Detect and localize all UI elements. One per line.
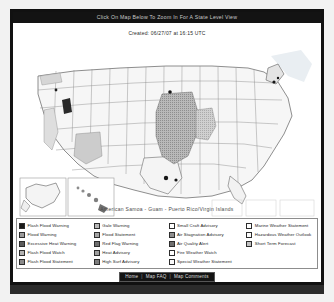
legend-item[interactable]: Special Weather Statement bbox=[169, 257, 247, 266]
nav-separator: | bbox=[140, 274, 144, 279]
legend-label: Special Weather Statement bbox=[177, 259, 232, 265]
legend-swatch bbox=[246, 223, 252, 229]
legend-label: Hazardous Weather Outlook bbox=[255, 232, 312, 238]
legend-swatch bbox=[19, 232, 25, 238]
legend-label: Fire Weather Watch bbox=[177, 250, 217, 256]
legend-swatch bbox=[169, 250, 175, 256]
nav-home-link[interactable]: Home bbox=[125, 274, 138, 279]
legend-swatch bbox=[169, 232, 175, 238]
map-graphic[interactable] bbox=[16, 38, 318, 218]
legend-item[interactable]: Gale Warning bbox=[94, 221, 169, 230]
legend-swatch bbox=[94, 223, 100, 229]
legend-swatch bbox=[94, 241, 100, 247]
bottom-strip bbox=[10, 285, 324, 294]
legend-label: Flash Flood Watch bbox=[28, 250, 65, 256]
legend-column-1: Flash Flood Warning Flood Warning Excess… bbox=[19, 221, 94, 267]
legend-item[interactable]: Flood Warning bbox=[19, 230, 94, 239]
legend-item[interactable]: Hazardous Weather Outlook bbox=[246, 230, 316, 239]
legend-column-4: Marine Weather Statement Hazardous Weath… bbox=[246, 221, 316, 267]
nav-separator: | bbox=[168, 274, 172, 279]
legend-label: Flash Flood Warning bbox=[28, 223, 69, 229]
legend-swatch bbox=[246, 232, 252, 238]
page-root: Click On Map Below To Zoom In For A Stat… bbox=[0, 0, 334, 302]
nav-bar: Home | Map FAQ | Map Comments bbox=[119, 272, 214, 282]
legend-label: Small Craft Advisory bbox=[177, 223, 218, 229]
legend-label: Flood Warning bbox=[28, 232, 57, 238]
legend-item[interactable]: Excessive Heat Warning bbox=[19, 239, 94, 248]
legend-item[interactable]: Flash Flood Watch bbox=[19, 248, 94, 257]
legend-label: Red Flag Warning bbox=[102, 241, 138, 247]
legend-panel: Flash Flood Warning Flood Warning Excess… bbox=[16, 218, 318, 269]
legend-label: Marine Weather Statement bbox=[255, 223, 309, 229]
legend-column-3: Small Craft Advisory Air Stagnation Advi… bbox=[169, 221, 247, 267]
legend-swatch bbox=[169, 241, 175, 247]
legend-swatch bbox=[169, 223, 175, 229]
nav-map-faq-link[interactable]: Map FAQ bbox=[146, 274, 167, 279]
banner-title: Click On Map Below To Zoom In For A Stat… bbox=[13, 12, 321, 23]
legend-item[interactable]: Air Stagnation Advisory bbox=[169, 230, 247, 239]
legend-label: Gale Warning bbox=[102, 223, 129, 229]
legend-label: Heat Advisory bbox=[102, 250, 130, 256]
legend-item[interactable]: Marine Weather Statement bbox=[246, 221, 316, 230]
legend-column-2: Gale Warning Flood Statement Red Flag Wa… bbox=[94, 221, 169, 267]
legend-label: Air Stagnation Advisory bbox=[177, 232, 224, 238]
legend-item[interactable]: Fire Weather Watch bbox=[169, 248, 247, 257]
map-frame: Click On Map Below To Zoom In For A Stat… bbox=[10, 9, 324, 285]
legend-swatch bbox=[19, 259, 25, 265]
legend-label: Excessive Heat Warning bbox=[28, 241, 77, 247]
legend-swatch bbox=[19, 223, 25, 229]
legend-label: High Surf Advisory bbox=[102, 259, 139, 265]
legend-item[interactable]: Flash Flood Warning bbox=[19, 221, 94, 230]
legend-item[interactable]: Flash Flood Statement bbox=[19, 257, 94, 266]
legend-label: Air Quality Alert bbox=[177, 241, 208, 247]
legend-swatch bbox=[19, 241, 25, 247]
legend-label: Flood Statement bbox=[102, 232, 135, 238]
legend-item[interactable]: Heat Advisory bbox=[94, 248, 169, 257]
legend-swatch bbox=[94, 250, 100, 256]
legend-swatch bbox=[94, 232, 100, 238]
created-timestamp: Created: 06/27/07 at 16:15 UTC bbox=[13, 30, 321, 36]
legend-item[interactable]: Short Term Forecast bbox=[246, 239, 316, 248]
legend-swatch bbox=[246, 241, 252, 247]
legend-swatch bbox=[94, 259, 100, 265]
territory-caption: American Samoa - Guam - Puerto Rico/Virg… bbox=[13, 206, 321, 212]
us-warnings-map[interactable] bbox=[16, 38, 318, 218]
legend-label: Flash Flood Statement bbox=[28, 259, 73, 265]
legend-item[interactable]: Red Flag Warning bbox=[94, 239, 169, 248]
legend-item[interactable]: Flood Statement bbox=[94, 230, 169, 239]
legend-item[interactable]: Small Craft Advisory bbox=[169, 221, 247, 230]
legend-item[interactable]: High Surf Advisory bbox=[94, 257, 169, 266]
legend-label: Short Term Forecast bbox=[255, 241, 296, 247]
footer-nav: Home | Map FAQ | Map Comments bbox=[16, 271, 318, 282]
legend-item[interactable]: Air Quality Alert bbox=[169, 239, 247, 248]
nav-map-comments-link[interactable]: Map Comments bbox=[174, 274, 209, 279]
legend-swatch bbox=[169, 259, 175, 265]
legend-swatch bbox=[19, 250, 25, 256]
